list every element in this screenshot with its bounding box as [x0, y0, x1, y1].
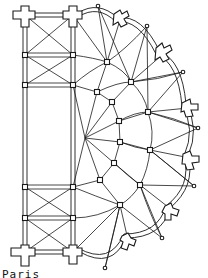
outer-wall-columns — [96, 4, 200, 270]
aisle-ribs — [25, 15, 73, 252]
pier-bottom-left — [11, 245, 35, 266]
straight-bay-walls — [23, 13, 75, 254]
pier-top-left — [13, 6, 35, 27]
chevet-plan-diagram — [0, 0, 208, 278]
diagram-caption: Paris — [2, 268, 40, 278]
radiating-buttresses — [113, 10, 199, 250]
pier-bottom-right — [63, 245, 82, 264]
ambulatory-ribs — [73, 6, 198, 268]
